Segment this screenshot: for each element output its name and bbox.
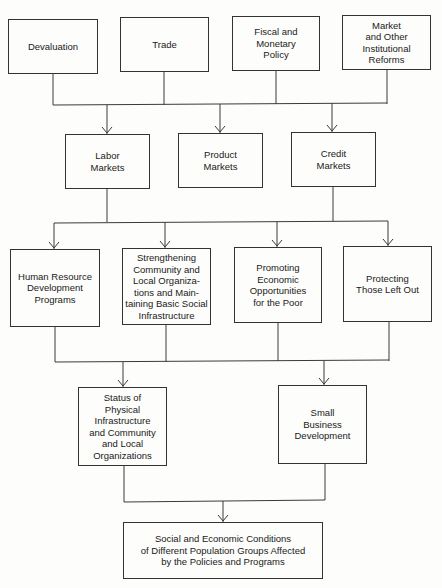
node-small-business-development: Small Business Development xyxy=(278,385,367,464)
node-institutional-reforms: Market and Other Institutional Reforms xyxy=(342,15,431,70)
node-label: Product Markets xyxy=(204,149,238,172)
node-label: Promoting Economic Opportunities for the… xyxy=(250,262,307,308)
node-label: Trade xyxy=(152,39,176,51)
node-label: Devaluation xyxy=(28,41,78,53)
node-trade: Trade xyxy=(120,17,209,72)
node-label: Fiscal and Monetary Policy xyxy=(254,26,297,61)
node-label: Human Resource Development Programs xyxy=(18,271,92,306)
node-label: Protecting Those Left Out xyxy=(356,273,419,296)
connector-bar xyxy=(55,360,389,362)
connector-bar xyxy=(124,500,325,502)
node-promoting-opportunities: Promoting Economic Opportunities for the… xyxy=(234,247,322,323)
node-fiscal-monetary-policy: Fiscal and Monetary Policy xyxy=(232,16,320,71)
node-label: Market and Other Institutional Reforms xyxy=(362,20,410,66)
node-label: Small Business Development xyxy=(295,407,351,442)
node-status-infrastructure: Status of Physical Infrastructure and Co… xyxy=(78,387,167,466)
node-label: Social and Economic Conditions of Differ… xyxy=(141,533,305,568)
node-devaluation: Devaluation xyxy=(8,19,98,74)
node-strengthening-community: Strengthening Community and Local Organi… xyxy=(122,248,211,325)
node-label: Strengthening Community and Local Organi… xyxy=(125,252,207,321)
node-label: Credit Markets xyxy=(317,148,351,171)
policy-flow-diagram: Devaluation Trade Fiscal and Monetary Po… xyxy=(0,0,442,588)
node-social-economic-conditions: Social and Economic Conditions of Differ… xyxy=(123,522,323,579)
node-product-markets: Product Markets xyxy=(178,133,263,188)
node-credit-markets: Credit Markets xyxy=(291,132,376,187)
node-protecting-left-out: Protecting Those Left Out xyxy=(343,246,432,322)
node-label: Labor Markets xyxy=(91,150,125,173)
node-human-resource-development: Human Resource Development Programs xyxy=(10,249,100,327)
node-label: Status of Physical Infrastructure and Co… xyxy=(89,392,156,461)
connector-bar xyxy=(54,221,388,223)
node-labor-markets: Labor Markets xyxy=(65,134,150,189)
